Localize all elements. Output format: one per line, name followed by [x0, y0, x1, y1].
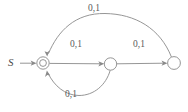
edge-label-q2-q0: 0,1: [88, 4, 100, 14]
state-q2-circle: [168, 57, 181, 70]
automaton-diagram-svg: [0, 0, 188, 112]
state-node-q2[interactable]: [168, 57, 181, 70]
edge-label-q0-q1: 0,1: [70, 40, 82, 50]
edge-q2-to-q0: [45, 13, 172, 57]
start-state-label: S: [8, 57, 14, 68]
state-q1-circle: [104, 58, 116, 70]
edge-q2-q0-curve: [49, 13, 172, 57]
edge-q1-to-q2: [117, 61, 168, 66]
edge-label-q1-q0: 0,1: [65, 90, 77, 100]
edge-q1-q2-line: [117, 63, 164, 64]
state-node-q1[interactable]: [104, 58, 116, 70]
edge-q1-q0-curve: [48, 70, 110, 95]
edge-q0-to-q1: [50, 61, 105, 66]
edge-q1-to-q0: [45, 70, 110, 95]
edge-label-q1-q2: 0,1: [133, 40, 145, 50]
automaton-diagram-canvas: S 0,1 0,1 0,1 0,1: [0, 0, 188, 112]
state-node-q0[interactable]: [37, 57, 49, 69]
edge-start-to-q0: [20, 61, 37, 66]
state-q0-inner-circle: [40, 60, 47, 67]
